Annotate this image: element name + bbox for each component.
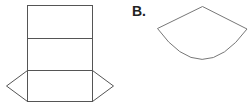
prism-net-bottom-rectangle [28, 71, 93, 102]
prism-net-left-triangle [7, 71, 28, 102]
sector-figure [158, 7, 248, 60]
prism-net-top-rectangle [28, 6, 93, 39]
prism-net-right-triangle [93, 71, 114, 102]
prism-net-middle-rectangle [28, 39, 93, 71]
prism-net-figure [0, 0, 248, 111]
figure-b-label: B. [132, 3, 146, 19]
